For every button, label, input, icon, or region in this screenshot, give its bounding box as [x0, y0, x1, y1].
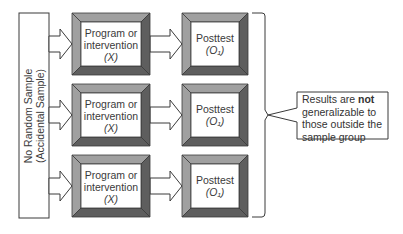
- sample-label: No Random Sample (Accidental Sample): [22, 69, 46, 164]
- program-label: Program orintervention(X): [81, 98, 141, 134]
- arrow-program-to-posttest: [150, 171, 182, 201]
- arrow-sample-to-program: [49, 29, 72, 59]
- posttest-label: Posttest(O₁): [191, 103, 239, 127]
- callout-text: Results are not generalizable to those o…: [302, 93, 390, 143]
- program-label: Program orintervention(X): [81, 169, 141, 205]
- posttest-label: Posttest(O₁): [191, 174, 239, 198]
- program-label: Program orintervention(X): [81, 27, 141, 63]
- arrow-program-to-posttest: [150, 100, 182, 130]
- arrow-program-to-posttest: [150, 29, 182, 59]
- posttest-label: Posttest(O₁): [191, 32, 239, 56]
- bracket: [252, 13, 268, 217]
- arrow-sample-to-program: [49, 171, 72, 201]
- arrow-sample-to-program: [49, 100, 72, 130]
